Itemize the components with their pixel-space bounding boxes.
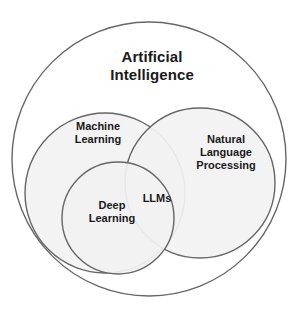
venn-diagram: Artificial Intelligence Machine Learning… bbox=[0, 0, 304, 318]
venn-diagram-canvas bbox=[0, 0, 304, 318]
circle-deep-learning bbox=[62, 162, 174, 274]
